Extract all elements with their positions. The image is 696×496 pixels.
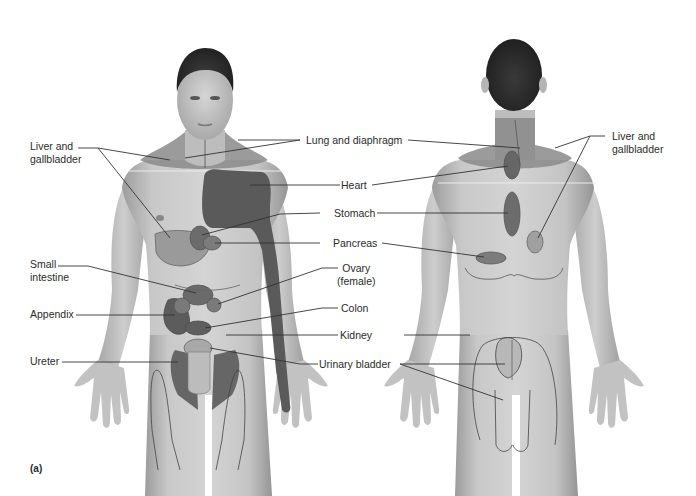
back-ear-left	[481, 77, 489, 93]
label-appendix: Appendix	[30, 308, 74, 321]
label-liver-gallbladder-front: Liver and gallbladder	[30, 140, 81, 166]
label-small-intestine: Small intestine	[30, 258, 69, 284]
label-liver-gallbladder-back: Liver and gallbladder	[612, 130, 663, 156]
region-pancreas-back	[476, 252, 506, 264]
label-lung-diaphragm: Lung and diaphragm	[306, 134, 402, 147]
front-eye-right	[190, 96, 200, 100]
label-urinary-bladder: Urinary bladder	[319, 358, 391, 371]
front-genitals	[188, 352, 210, 394]
panel-label: (a)	[30, 462, 42, 475]
region-stomach-back	[504, 192, 520, 236]
region-ovary	[207, 298, 221, 312]
region-appendix-inner	[174, 298, 190, 314]
region-liver-gallbladder-back	[527, 231, 543, 253]
back-left-hand	[384, 360, 439, 428]
front-right-hand	[74, 360, 129, 428]
front-nipple	[156, 215, 164, 221]
label-colon: Colon	[341, 302, 368, 315]
label-heart: Heart	[341, 179, 367, 192]
posterior-figure	[384, 39, 644, 496]
label-ovary: Ovary (female)	[337, 262, 376, 288]
back-ear-right	[539, 77, 547, 93]
region-heart-back	[504, 151, 520, 179]
label-pancreas: Pancreas	[333, 237, 377, 250]
label-kidney: Kidney	[340, 329, 372, 342]
back-torso	[432, 160, 594, 335]
label-stomach: Stomach	[334, 207, 375, 220]
referred-pain-diagram: Liver and gallbladder Small intestine Ap…	[0, 0, 696, 496]
front-eye-left	[210, 96, 220, 100]
back-head-hair	[486, 39, 542, 111]
label-ureter: Ureter	[30, 355, 59, 368]
back-right-hand	[589, 360, 644, 428]
